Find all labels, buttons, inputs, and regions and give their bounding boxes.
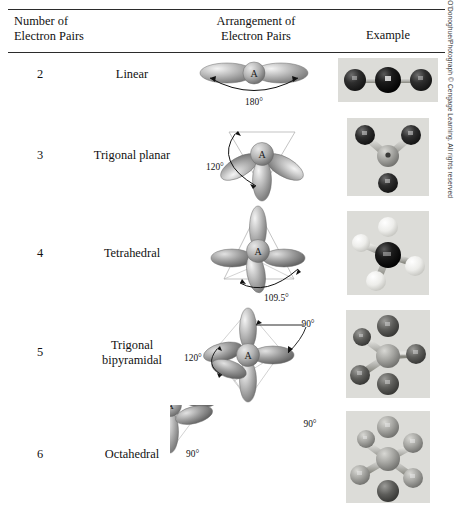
example-photo-tetrahedral — [336, 211, 440, 295]
orbital-diagram-octahedral: A 90° 90° — [170, 405, 335, 513]
header-col1-line2: Electron Pairs — [14, 29, 164, 44]
central-atom-label: A — [254, 246, 262, 257]
row-pairs-count: 2 — [20, 67, 60, 82]
cropped-caption-remnant — [10, 0, 430, 5]
header-col1-line1: Number of — [14, 14, 164, 29]
table-row-trigonal-planar: 3 Trigonal planar A 120° — [0, 110, 453, 205]
bond-angle-label-axial: 90° — [303, 419, 316, 429]
bond-angle-label-equatorial: 120° — [184, 353, 202, 363]
bond-angle-label-axial: 90° — [301, 319, 314, 329]
row-pairs-count: 5 — [20, 345, 60, 360]
table-row-tetrahedral: 4 Tetrahedral A 109.5° — [0, 205, 453, 305]
orbital-diagram-linear: A 180° — [178, 53, 330, 110]
table-row-octahedral: 6 Octahedral A — [0, 405, 453, 513]
table-top-rule — [8, 9, 445, 10]
header-number-of-electron-pairs: Number of Electron Pairs — [6, 14, 164, 43]
bond-angle-label-equatorial: 90° — [186, 449, 199, 459]
central-atom-label: A — [258, 149, 266, 160]
table-row-linear: 2 Linear A 180° — [0, 53, 453, 110]
header-example: Example — [336, 28, 440, 43]
orbital-diagram-tetrahedral: A 109.5° — [178, 205, 330, 305]
header-col2-line1: Arrangement of — [176, 14, 336, 29]
central-atom-label: A — [244, 350, 252, 361]
photo-credit: Photos Ken O'Donoghue/Photograph © Cenga… — [447, 0, 454, 198]
row-pairs-count: 6 — [20, 447, 60, 462]
central-atom-label: A — [250, 68, 258, 79]
header-col2-line2: Electron Pairs — [176, 29, 336, 44]
example-photo-trigonal-bipyramidal — [336, 310, 440, 398]
row-geometry-name: Tetrahedral — [72, 246, 192, 261]
bond-angle-label: 109.5° — [264, 293, 289, 303]
orbital-diagram-trigonal-planar: A 120° — [178, 112, 330, 204]
row-geometry-name: Linear — [72, 67, 192, 82]
row-pairs-count: 4 — [20, 246, 60, 261]
header-arrangement-of-electron-pairs: Arrangement of Electron Pairs — [176, 14, 336, 43]
bond-angle-label: 180° — [245, 97, 263, 107]
row-geometry-name: Trigonal planar — [72, 148, 192, 163]
example-photo-linear — [336, 58, 440, 102]
table-row-trigonal-bipyramidal: 5 Trigonal bipyramidal A — [0, 305, 453, 405]
bond-angle-label: 120° — [206, 162, 224, 172]
example-photo-octahedral — [336, 411, 440, 503]
orbital-diagram-trigonal-bipyramidal: A 90° 120° — [170, 305, 335, 405]
example-photo-trigonal-planar — [336, 118, 440, 196]
row-pairs-count: 3 — [20, 148, 60, 163]
